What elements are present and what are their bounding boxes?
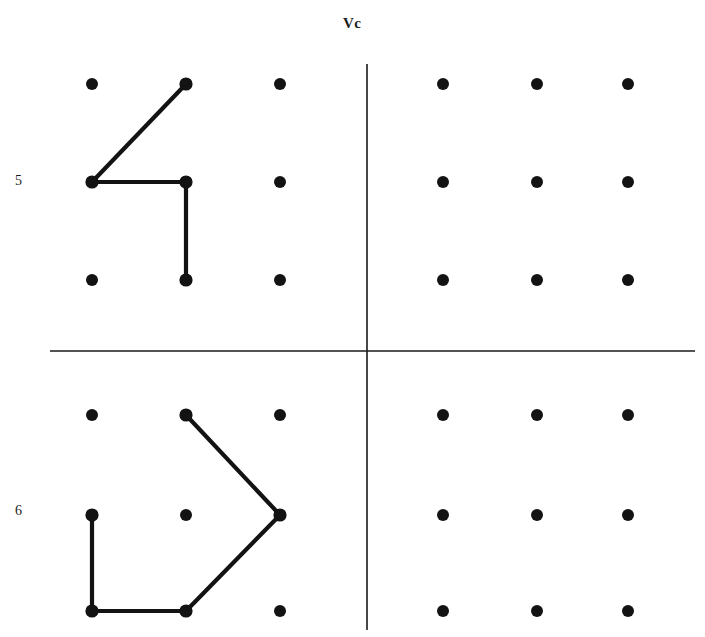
grid-dot [437, 409, 449, 421]
dot-grid-group [86, 78, 634, 617]
grid-dot [180, 509, 192, 521]
grid-dot [622, 78, 634, 90]
pattern-vertex-dot [179, 175, 192, 188]
pattern-vertex-dot [179, 408, 192, 421]
grid-dot [274, 605, 286, 617]
pattern-path [92, 84, 186, 280]
grid-dot [274, 78, 286, 90]
grid-dot [531, 78, 543, 90]
grid-dot [274, 409, 286, 421]
pattern-vertex-dot [179, 604, 192, 617]
grid-dot [437, 274, 449, 286]
grid-dot [86, 274, 98, 286]
grid-dot [437, 78, 449, 90]
pattern-vertex-dot [85, 508, 98, 521]
pattern-vertex-dot [273, 508, 286, 521]
grid-dot [531, 509, 543, 521]
pattern-path-group [92, 84, 280, 611]
row-label-bottom: 6 [15, 503, 22, 519]
grid-dot [437, 176, 449, 188]
grid-dot [622, 509, 634, 521]
pattern-vertex-dot [179, 273, 192, 286]
axes-group [50, 64, 695, 630]
grid-dot [531, 605, 543, 617]
figure-root: Vc 5 6 [0, 0, 705, 637]
grid-dot [531, 176, 543, 188]
grid-dot [531, 409, 543, 421]
grid-dot [531, 274, 543, 286]
grid-dot [274, 176, 286, 188]
figure-title-label: Vc [343, 15, 361, 32]
grid-dot [437, 509, 449, 521]
grid-dot [86, 409, 98, 421]
grid-dot [437, 605, 449, 617]
grid-dot [274, 274, 286, 286]
pattern-vertex-dot [85, 175, 98, 188]
row-label-top: 5 [15, 173, 22, 189]
grid-dot [622, 274, 634, 286]
grid-dot [622, 605, 634, 617]
pattern-vertex-dot [179, 77, 192, 90]
grid-dot [622, 176, 634, 188]
grid-dot [622, 409, 634, 421]
grid-dot [86, 78, 98, 90]
pattern-vertex-dot [85, 604, 98, 617]
caption-fragment [8, 628, 258, 637]
figure-canvas [0, 0, 705, 637]
